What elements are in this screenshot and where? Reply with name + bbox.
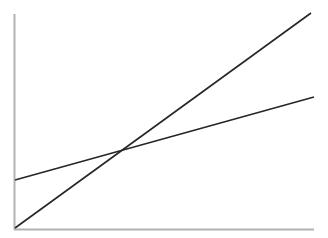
line-chart <box>0 0 328 238</box>
chart-container <box>0 0 328 238</box>
